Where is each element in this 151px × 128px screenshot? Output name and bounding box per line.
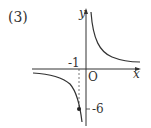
curve-branch-positive: [91, 12, 140, 62]
origin-label: O: [88, 71, 98, 83]
marked-point: [77, 107, 81, 111]
tick-label-y-minus-6: -6: [92, 103, 104, 115]
x-axis-label: x: [133, 68, 140, 80]
curve-branch-negative: [33, 73, 82, 122]
y-axis-label: y: [79, 7, 86, 19]
tick-label-x-minus-1: -1: [68, 57, 80, 69]
